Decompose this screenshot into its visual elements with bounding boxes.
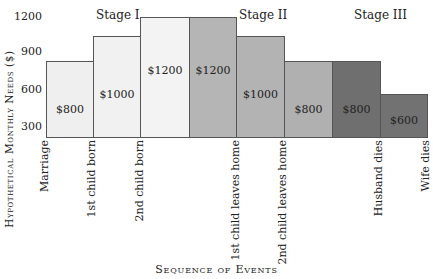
bar-value: $800 [333, 103, 380, 116]
bar-2nd-child-born: $1200 [140, 17, 190, 138]
bar-1st-child-born: $1000 [93, 36, 141, 138]
stage-label-3: Stage III [354, 8, 407, 22]
bar-value: $1000 [237, 88, 284, 101]
event-label-marriage: Marriage [38, 140, 51, 192]
bar-value: $1200 [141, 64, 189, 77]
event-label-wife-dies: Wife dies [419, 140, 432, 191]
bar-husband-dies: $800 [332, 61, 381, 138]
stage-label-2: Stage II [239, 8, 287, 22]
bar-wife-dies: $600 [380, 94, 428, 138]
bar-value: $1000 [94, 88, 140, 101]
y-tick-900: 900 [10, 46, 42, 58]
bar-value: $600 [381, 114, 427, 127]
bar-value: $1200 [190, 64, 236, 77]
event-label-1st-child-born: 1st child born [85, 140, 98, 217]
y-tick-300: 300 [10, 121, 42, 133]
bar-stage2-start: $1200 [189, 17, 237, 138]
event-label-husband-dies: Husband dies [372, 140, 385, 216]
event-label-2nd-child-leaves: 2nd child leaves home [276, 140, 289, 265]
y-tick-1200: 1200 [10, 11, 42, 23]
bar-marriage: $800 [46, 61, 94, 138]
stage-label-1: Stage I [96, 8, 140, 22]
event-label-2nd-child-born: 2nd child born [133, 140, 146, 221]
bar-1st-child-leaves: $1000 [236, 36, 285, 138]
y-tick-600: 600 [10, 84, 42, 96]
bar-value: $800 [47, 103, 93, 116]
bar-2nd-child-leaves: $800 [284, 61, 333, 138]
bar-value: $800 [285, 103, 332, 116]
x-axis-label: Sequence of Events [0, 263, 433, 276]
event-label-1st-child-leaves: 1st child leaves home [229, 140, 242, 260]
